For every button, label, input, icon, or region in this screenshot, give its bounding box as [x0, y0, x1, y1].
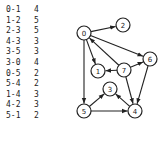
graph-node-0: 0: [77, 26, 91, 40]
node-label: 1: [96, 68, 100, 76]
graph-node-3: 3: [103, 82, 117, 96]
node-label: 5: [82, 108, 86, 116]
graph-node-5: 5: [77, 104, 91, 118]
graph-node-6: 6: [143, 52, 157, 66]
edge-6-to-4: [137, 66, 148, 104]
graph-node-1: 1: [91, 64, 105, 78]
edge-4-to-3: [116, 94, 130, 106]
edge-7-to-4: [126, 77, 133, 104]
node-label: 4: [133, 108, 138, 116]
graph-node-2: 2: [116, 18, 130, 32]
edge-7-to-6: [130, 62, 143, 67]
node-label: 3: [108, 86, 112, 94]
node-label: 0: [82, 30, 86, 38]
edge-0-to-2: [91, 27, 116, 32]
node-label: 2: [121, 22, 125, 30]
directed-graph: 01234567: [0, 0, 167, 142]
edge-0-to-1: [86, 40, 95, 64]
graph-node-7: 7: [117, 63, 131, 77]
graph-node-4: 4: [128, 104, 142, 118]
edge-5-to-3: [89, 94, 104, 107]
node-label: 7: [122, 67, 126, 75]
node-label: 6: [148, 56, 153, 64]
